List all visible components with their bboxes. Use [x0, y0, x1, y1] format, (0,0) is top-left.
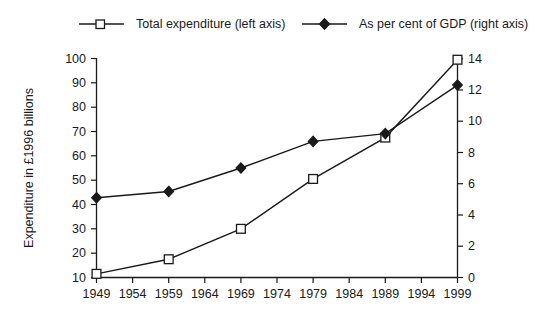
legend-item-gdp-percent: As per cent of GDP (right axis)	[302, 17, 528, 31]
data-point-filled-diamond	[236, 163, 246, 173]
x-tick-group: 1964	[191, 278, 219, 302]
legend-item-total-expenditure: Total expenditure (left axis)	[79, 17, 285, 31]
series-gdp-percent	[92, 80, 463, 203]
x-tick-label: 1954	[119, 287, 147, 301]
data-point-filled-diamond	[453, 80, 463, 90]
left-tick-group: 50	[72, 173, 96, 187]
x-tick-group: 1974	[263, 278, 291, 302]
data-point-open-square	[237, 224, 246, 233]
left-tick-label: 80	[72, 100, 86, 114]
left-tick-label: 20	[72, 246, 86, 260]
left-tick-label: 90	[72, 76, 86, 90]
left-tick-label: 40	[72, 198, 86, 212]
left-axis-ticks: 10 20 30 40 50 60 70 80 90 100	[65, 52, 96, 285]
series-layer	[92, 55, 463, 278]
right-tick-label: 4	[468, 208, 475, 222]
data-point-open-square	[164, 255, 173, 264]
right-tick-group: 8	[458, 146, 476, 160]
x-tick-label: 1974	[263, 287, 291, 301]
right-tick-group: 4	[458, 208, 476, 222]
left-tick-label: 100	[65, 52, 86, 66]
x-tick-group: 1994	[407, 278, 435, 302]
x-tick-group: 1949	[83, 278, 111, 302]
right-tick-label: 8	[468, 146, 475, 160]
x-tick-label: 1979	[299, 287, 327, 301]
filled-diamond-icon	[320, 19, 330, 30]
right-tick-group: 0	[458, 271, 476, 285]
data-point-open-square	[92, 269, 101, 278]
x-tick-group: 1989	[371, 278, 399, 302]
x-tick-group: 1984	[335, 278, 363, 302]
x-tick-group: 1969	[227, 278, 255, 302]
left-tick-label: 50	[72, 173, 86, 187]
left-tick-group: 60	[72, 149, 96, 163]
chart-figure: Total expenditure (left axis) As per cen…	[0, 0, 544, 325]
legend-label-gdp-percent: As per cent of GDP (right axis)	[359, 17, 528, 31]
right-tick-label: 2	[468, 239, 475, 253]
x-tick-group: 1954	[119, 278, 147, 302]
series-line	[97, 85, 458, 198]
right-tick-group: 10	[458, 114, 482, 128]
data-point-filled-diamond	[92, 193, 102, 203]
data-point-open-square	[453, 55, 462, 64]
x-tick-group: 1959	[155, 278, 183, 302]
x-tick-label: 1949	[83, 287, 111, 301]
left-tick-group: 100	[65, 52, 96, 66]
open-square-icon	[96, 20, 105, 29]
x-tick-label: 1964	[191, 287, 219, 301]
right-tick-label: 10	[468, 114, 482, 128]
left-tick-group: 70	[72, 125, 96, 139]
right-tick-group: 6	[458, 177, 476, 191]
data-point-filled-diamond	[164, 186, 174, 196]
left-tick-group: 80	[72, 100, 96, 114]
legend-label-total-expenditure: Total expenditure (left axis)	[136, 17, 285, 31]
data-point-open-square	[309, 175, 318, 184]
series-total-expenditure	[92, 55, 462, 278]
left-tick-group: 30	[72, 222, 96, 236]
right-tick-label: 12	[468, 83, 482, 97]
left-tick-group: 90	[72, 76, 96, 90]
right-tick-label: 14	[468, 52, 482, 66]
right-tick-label: 6	[468, 177, 475, 191]
left-tick-label: 70	[72, 125, 86, 139]
chart-container: Total expenditure (left axis) As per cen…	[0, 0, 544, 325]
x-tick-label: 1984	[335, 287, 363, 301]
right-tick-label: 0	[468, 271, 475, 285]
x-tick-label: 1999	[444, 287, 472, 301]
series-line	[97, 60, 458, 274]
x-tick-group: 1979	[299, 278, 327, 302]
x-tick-label: 1994	[407, 287, 435, 301]
x-tick-label: 1989	[371, 287, 399, 301]
data-point-filled-diamond	[308, 136, 318, 146]
left-tick-group: 20	[72, 246, 96, 260]
left-tick-label: 30	[72, 222, 86, 236]
left-tick-label: 60	[72, 149, 86, 163]
left-tick-label: 10	[72, 271, 86, 285]
x-tick-label: 1969	[227, 287, 255, 301]
chart-legend: Total expenditure (left axis) As per cen…	[79, 17, 528, 31]
y-axis-title: Expenditure in £1996 billions	[22, 88, 36, 248]
x-axis-ticks: 1949 1954 1959 1964 1969 1974 1979 1984 …	[83, 278, 472, 302]
x-tick-label: 1959	[155, 287, 183, 301]
right-tick-group: 2	[458, 239, 476, 253]
